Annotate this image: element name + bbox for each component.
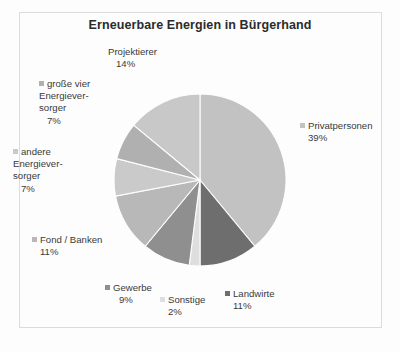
gewerbe-marker-line: Gewerbe: [105, 282, 152, 294]
slice-label-projektierer-text: Projektierer: [108, 46, 157, 58]
slice-label-grosse-vier-percent: 7%: [47, 115, 90, 127]
landwirte-marker-line: Landwirte: [225, 288, 275, 300]
slice-label-andere-line2: Energiever-: [13, 158, 63, 170]
fond-marker-line: Fond / Banken: [32, 234, 102, 246]
slice-label-gewerbe: Gewerbe 9%: [105, 282, 152, 306]
slice-label-andere-line3: sorger: [13, 170, 63, 182]
slice-label-fond-banken-text: Fond / Banken: [40, 234, 102, 245]
slice-label-andere-percent: 7%: [21, 183, 63, 195]
slice-label-landwirte-text: Landwirte: [233, 288, 275, 299]
slice-label-sonstige-percent: 2%: [168, 306, 205, 318]
slice-label-privatpersonen: Privatpersonen 39%: [300, 120, 373, 144]
slice-label-sonstige-text: Sonstige: [168, 294, 205, 305]
slice-label-projektierer-percent: 14%: [116, 58, 157, 70]
slice-label-grosse-vier-line3: sorger: [39, 102, 90, 114]
grosse-vier-marker-line: große vier: [39, 78, 90, 90]
sonstige-marker-line: Sonstige: [160, 294, 205, 306]
legend-marker-gewerbe-icon: [105, 285, 110, 290]
legend-marker-grosse-vier-icon: [39, 81, 44, 86]
slice-label-fond-banken-percent: 11%: [40, 246, 102, 258]
slice-label-landwirte-percent: 11%: [233, 300, 275, 312]
slice-label-grosse-vier-energieversorger: große vier Energiever- sorger 7%: [39, 78, 90, 127]
slice-label-andere-energieversorger: andere Energiever- sorger 7%: [13, 146, 63, 195]
legend-marker-fond-banken-icon: [32, 237, 37, 242]
slice-label-privatpersonen-text: Privatpersonen: [308, 120, 373, 131]
privat-marker-line: Privatpersonen: [300, 120, 373, 132]
legend-marker-andere-icon: [13, 149, 18, 154]
legend-marker-privatpersonen-icon: [300, 123, 305, 128]
slice-label-grosse-vier-line1: große vier: [47, 78, 90, 89]
pie-slices-group: [114, 94, 286, 266]
andere-marker-line: andere: [13, 146, 63, 158]
slice-label-landwirte: Landwirte 11%: [225, 288, 275, 312]
slice-label-fond-banken: Fond / Banken 11%: [32, 234, 102, 258]
slice-label-projektierer: Projektierer 14%: [108, 46, 157, 70]
legend-marker-landwirte-icon: [225, 291, 230, 296]
slice-label-andere-line1: andere: [21, 146, 51, 157]
slice-label-grosse-vier-line2: Energiever-: [39, 90, 90, 102]
slice-label-gewerbe-text: Gewerbe: [113, 282, 152, 293]
slice-label-gewerbe-percent: 9%: [119, 294, 152, 306]
legend-marker-sonstige-icon: [160, 297, 165, 302]
slice-label-privatpersonen-percent: 39%: [308, 132, 373, 144]
pie-chart-figure: Erneuerbare Energien in Bürgerhand Proje…: [0, 0, 400, 352]
slice-label-sonstige: Sonstige 2%: [160, 294, 205, 318]
